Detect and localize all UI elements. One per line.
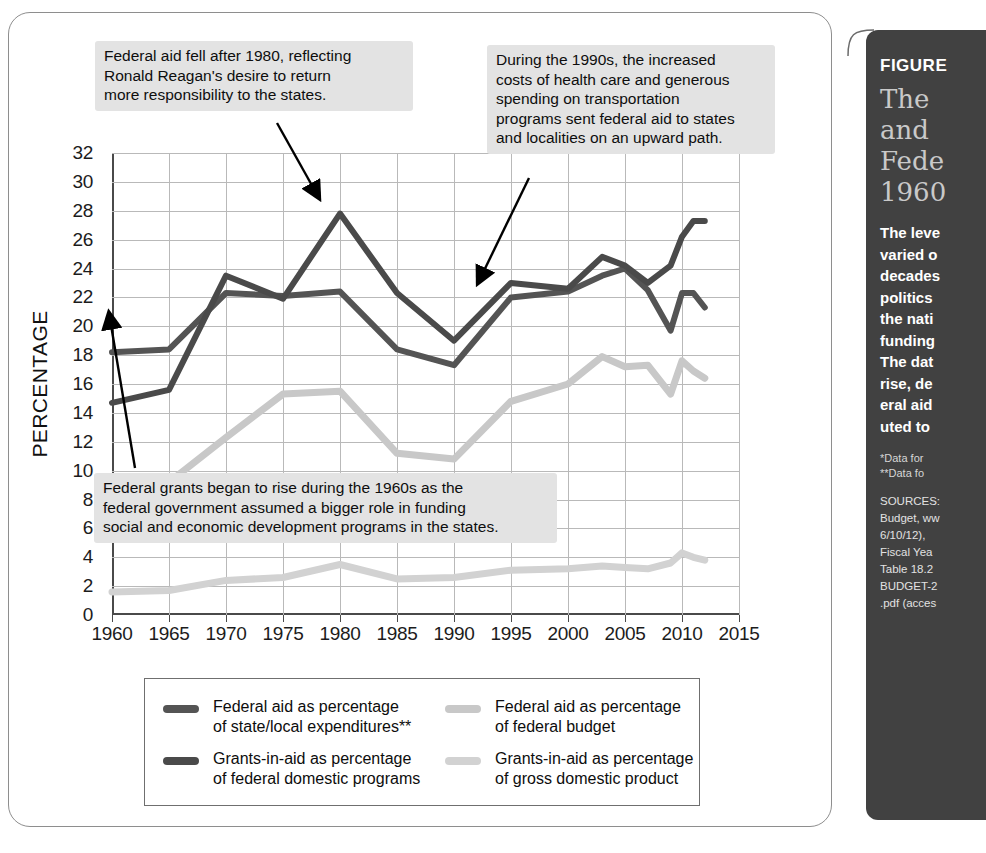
legend-label: Federal aid as percentage of state/local… <box>213 697 411 737</box>
annotation-sixties: Federal grants began to rise during the … <box>94 473 557 543</box>
x-tick-mark <box>625 615 626 622</box>
y-tick-label: 20 <box>33 315 93 337</box>
y-tick-label: 28 <box>33 200 93 222</box>
legend-swatch <box>163 705 199 713</box>
x-tick-mark <box>169 615 170 622</box>
legend-label: Grants-in-aid as percentage of federal d… <box>213 749 420 789</box>
sidebar-sources: SOURCES: Budget, ww 6/10/12), Fiscal Yea… <box>880 493 986 612</box>
chart-plot-area: PERCENTAGE 02468101214161820222426283032… <box>112 153 739 615</box>
y-tick-label: 24 <box>33 258 93 280</box>
y-tick-label: 2 <box>33 575 93 597</box>
legend-label: Federal aid as percentage of federal bud… <box>495 697 681 737</box>
x-tick-mark <box>397 615 398 622</box>
legend-item: Grants-in-aid as percentage of federal d… <box>163 749 420 789</box>
legend-item: Federal aid as percentage of state/local… <box>163 697 411 737</box>
chart-series-svg <box>112 153 739 615</box>
x-tick-mark <box>568 615 569 622</box>
legend-label: Grants-in-aid as percentage of gross dom… <box>495 749 693 789</box>
figure-caption-sidebar: FIGURE The and Fede 1960 The leve varied… <box>866 30 986 820</box>
x-tick-mark <box>283 615 284 622</box>
gridline <box>739 153 740 615</box>
sidebar-figure-label: FIGURE <box>880 56 986 76</box>
x-tick-mark <box>226 615 227 622</box>
legend-swatch <box>445 705 481 713</box>
x-tick-mark <box>739 615 740 622</box>
legend-swatch <box>163 757 199 765</box>
x-tick-mark <box>682 615 683 622</box>
y-tick-label: 12 <box>33 431 93 453</box>
y-tick-label: 8 <box>33 489 93 511</box>
annotation-nineties: During the 1990s, the increased costs of… <box>487 45 775 154</box>
legend-item: Federal aid as percentage of federal bud… <box>445 697 681 737</box>
series-line <box>112 553 705 592</box>
y-tick-label: 10 <box>33 460 93 482</box>
sidebar-note-1: *Data for <box>880 451 986 466</box>
y-tick-label: 30 <box>33 171 93 193</box>
x-tick-label: 2015 <box>704 623 774 645</box>
sidebar-title: The and Fede 1960 <box>880 84 986 208</box>
legend-item: Grants-in-aid as percentage of gross dom… <box>445 749 693 789</box>
x-tick-mark <box>454 615 455 622</box>
x-tick-mark <box>340 615 341 622</box>
y-tick-label: 26 <box>33 229 93 251</box>
x-tick-mark <box>112 615 113 622</box>
sidebar-body-text: The leve varied o decades politics the n… <box>880 222 986 437</box>
y-tick-label: 4 <box>33 546 93 568</box>
legend-swatch <box>445 757 481 765</box>
y-tick-label: 22 <box>33 286 93 308</box>
y-tick-label: 6 <box>33 517 93 539</box>
annotation-reagan: Federal aid fell after 1980, reflecting … <box>95 41 413 111</box>
series-line <box>112 269 705 366</box>
chart-legend: Federal aid as percentage of state/local… <box>144 678 700 806</box>
y-tick-label: 16 <box>33 373 93 395</box>
figure-panel: PERCENTAGE 02468101214161820222426283032… <box>8 12 832 827</box>
y-tick-label: 14 <box>33 402 93 424</box>
series-line <box>112 214 705 403</box>
y-tick-label: 18 <box>33 344 93 366</box>
x-tick-mark <box>511 615 512 622</box>
y-tick-label: 32 <box>33 142 93 164</box>
sidebar-note-2: **Data fo <box>880 466 986 481</box>
